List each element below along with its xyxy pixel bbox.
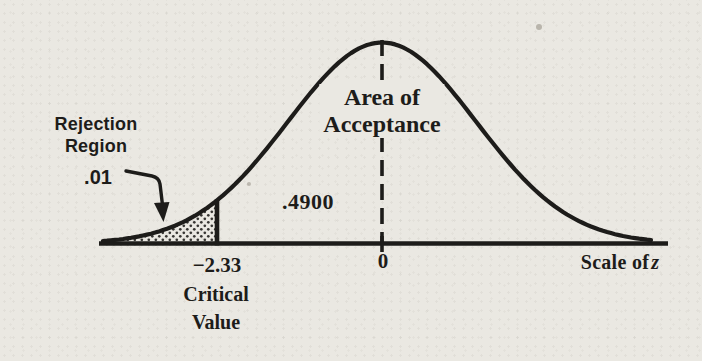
normal-curve (103, 43, 651, 242)
normal-curve-figure: Rejection Region .01 Area of Acceptance … (0, 0, 702, 361)
rejection-region-line2: Region (55, 135, 138, 157)
critical-caption-line2: Value (183, 308, 249, 336)
callout-arrow (126, 171, 163, 205)
zero-tick-label: 0 (378, 249, 389, 274)
rejection-region-line1: Rejection (55, 113, 138, 135)
critical-caption-line1: Critical (183, 280, 249, 308)
scan-speck (247, 182, 251, 186)
acceptance-line2: Acceptance (323, 111, 440, 138)
callout-arrowhead (154, 202, 170, 222)
rejection-region-label: Rejection Region (55, 113, 138, 157)
scan-speck (536, 24, 542, 30)
x-axis-label: Scale ofz (581, 251, 660, 274)
critical-value-caption: Critical Value (183, 280, 249, 336)
alpha-value-label: .01 (84, 166, 112, 189)
axis-label-text: Scale of (581, 251, 650, 273)
acceptance-area-value: .4900 (282, 189, 334, 215)
axis-label-variable: z (649, 251, 659, 273)
critical-value-number: −2.33 (193, 253, 242, 278)
acceptance-line1: Area of (323, 84, 440, 111)
area-of-acceptance-label: Area of Acceptance (319, 84, 444, 138)
